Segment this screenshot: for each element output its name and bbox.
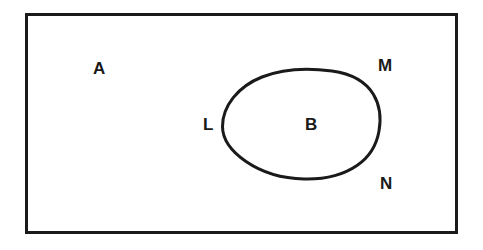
set-diagram-figure: A M L B N <box>0 0 483 250</box>
boundary-label-m: M <box>378 57 392 74</box>
boundary-label-n: N <box>380 175 392 192</box>
subset-label-b: B <box>305 116 317 133</box>
subset-blob-outline <box>223 69 381 179</box>
universal-set-rectangle <box>27 15 457 233</box>
universal-set-label-a: A <box>93 60 105 77</box>
boundary-label-l: L <box>203 116 213 133</box>
diagram-canvas <box>0 0 483 250</box>
